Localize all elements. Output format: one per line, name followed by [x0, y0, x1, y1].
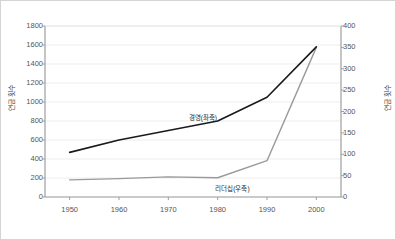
series-annotation: 경영(좌축)	[189, 112, 217, 122]
series-line	[70, 47, 317, 152]
series-annotation: 리더십(우축)	[215, 183, 249, 193]
chart-figure: 연금 횟수 연금 횟수 0200400600800100012001400160…	[0, 0, 396, 240]
